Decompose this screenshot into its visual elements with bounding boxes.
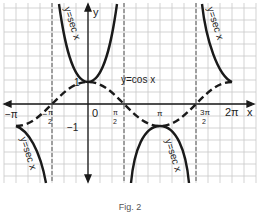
tick-two-pi: 2π	[225, 106, 239, 118]
tick-half-pi-num: π	[113, 109, 118, 116]
sec-cos-graph: −π − π 2 0 π 2 π 3π 2 2π x y 1 −1 y=cos …	[0, 0, 260, 215]
x-axis-left-arrow-icon	[4, 101, 11, 107]
y-axis-down-arrow-icon	[85, 175, 91, 182]
y-axis-up-arrow-icon	[85, 4, 91, 11]
tick-neg-pi: −π	[5, 109, 18, 120]
figure-caption: Fig. 2	[0, 202, 260, 212]
tick-pi: π	[157, 109, 163, 118]
tick-neg-half-pi-sign: −	[42, 109, 47, 119]
y-axis-label: y	[93, 6, 99, 18]
x-axis-label: x	[247, 106, 253, 118]
sec-label-left: y=sec x	[18, 135, 39, 171]
tick-neg-half-pi-num: π	[48, 109, 53, 116]
tick-three-half-pi-den: 2	[202, 118, 206, 125]
tick-three-half-pi-num: 3π	[200, 108, 210, 117]
tick-one: 1	[74, 77, 80, 88]
curve-labels: y=cos x y=sec x y=sec x y=sec x y=sec x	[18, 5, 226, 173]
tick-neg-half-pi-den: 2	[48, 118, 52, 125]
tick-half-pi-den: 2	[113, 118, 117, 125]
cos-label: y=cos x	[121, 74, 155, 85]
sec-label-pi: y=sec x	[163, 137, 184, 173]
tick-neg-one: −1	[67, 122, 79, 133]
origin-label: 0	[92, 107, 98, 119]
